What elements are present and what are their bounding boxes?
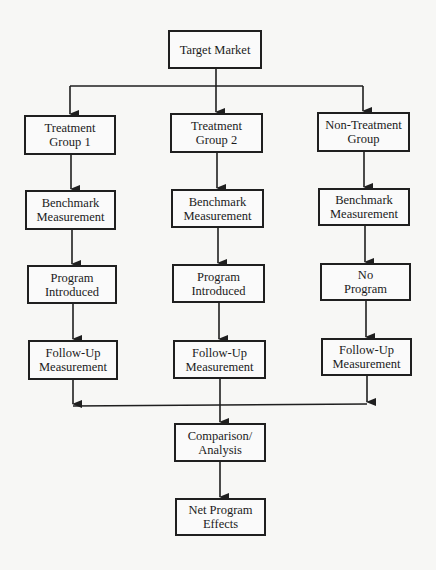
benchmark-measurement-1-label: Benchmark Measurement [36,196,104,224]
non-treatment-group-label: Non-Treatment Group [325,118,402,146]
benchmark-measurement-3-box: Benchmark Measurement [318,188,410,226]
follow-up-measurement-1-label: Follow-Up Measurement [39,346,107,374]
net-program-effects-label: Net Program Effects [188,503,252,531]
benchmark-measurement-2-label: Benchmark Measurement [183,195,251,223]
program-introduced-2-label: Program Introduced [191,270,245,298]
treatment-group-2-box: Treatment Group 2 [170,113,263,153]
follow-up-measurement-3-box: Follow-Up Measurement [321,338,412,376]
benchmark-measurement-1-box: Benchmark Measurement [25,190,116,230]
no-program-label: No Program [344,268,387,296]
benchmark-measurement-2-box: Benchmark Measurement [171,189,264,228]
comparison-analysis-box: Comparison/ Analysis [174,423,266,462]
target-market-box: Target Market [168,30,262,69]
program-introduced-1-label: Program Introduced [45,271,99,299]
follow-up-measurement-2-label: Follow-Up Measurement [185,346,253,374]
program-introduced-1-box: Program Introduced [27,265,117,304]
no-program-box: No Program [320,263,411,301]
flowchart-diagram: Target Market Treatment Group 1 Treatmen… [0,0,436,570]
treatment-group-2-label: Treatment Group 2 [191,119,242,147]
follow-up-measurement-2-box: Follow-Up Measurement [173,340,266,379]
target-market-label: Target Market [180,43,251,57]
non-treatment-group-box: Non-Treatment Group [317,112,410,152]
benchmark-measurement-3-label: Benchmark Measurement [330,193,398,221]
follow-up-measurement-3-label: Follow-Up Measurement [332,343,400,371]
follow-up-measurement-1-box: Follow-Up Measurement [28,340,118,380]
treatment-group-1-box: Treatment Group 1 [24,115,116,155]
comparison-analysis-label: Comparison/ Analysis [188,429,253,457]
treatment-group-1-label: Treatment Group 1 [45,121,96,149]
net-program-effects-box: Net Program Effects [175,498,266,536]
program-introduced-2-box: Program Introduced [172,264,265,303]
